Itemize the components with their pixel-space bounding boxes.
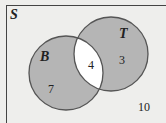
set-t-label: T bbox=[119, 26, 129, 41]
outside-count: 10 bbox=[138, 100, 150, 114]
intersection-count: 4 bbox=[88, 58, 94, 72]
venn-diagram: S B T 7 4 3 10 bbox=[0, 0, 166, 123]
set-b-label: B bbox=[39, 49, 49, 64]
universe-label: S bbox=[10, 7, 18, 22]
set-b-only-count: 7 bbox=[48, 82, 54, 96]
set-t-only-count: 3 bbox=[119, 53, 125, 67]
